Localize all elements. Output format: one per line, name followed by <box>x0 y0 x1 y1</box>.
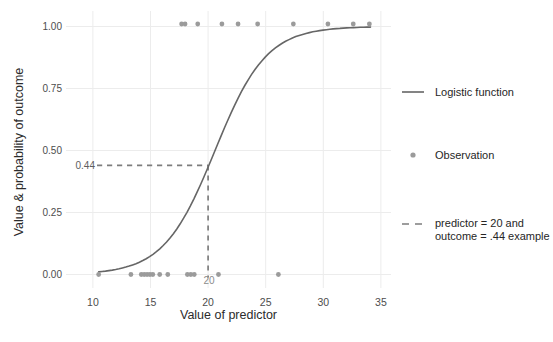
legend-label-example-line2: outcome = .44 example <box>435 230 550 243</box>
legend-label-observation: Observation <box>435 149 494 162</box>
legend-label-example-line1: predictor = 20 and <box>435 217 550 230</box>
y-tick-label: 0.25 <box>43 207 63 218</box>
observation-point <box>96 272 101 277</box>
observation-point <box>216 272 221 277</box>
observation-point <box>183 22 188 27</box>
observation-point <box>236 22 241 27</box>
observation-point <box>195 22 200 27</box>
y-tick-label: 0.50 <box>43 145 63 156</box>
point-key-icon <box>400 147 426 163</box>
y-tick-label: 0.75 <box>43 83 63 94</box>
x-tick-label: 15 <box>145 296 157 308</box>
legend-item-example: predictor = 20 and outcome = .44 example <box>400 217 550 242</box>
outcome-value-label: 0.44 <box>76 160 96 171</box>
observation-point <box>367 22 372 27</box>
legend: Logistic function Observation predictor … <box>396 0 553 342</box>
x-tick-label: 20 <box>202 296 214 308</box>
predictor-value-label: 20 <box>204 275 216 286</box>
observation-point <box>150 272 155 277</box>
dashed-line-key-icon <box>400 216 426 232</box>
legend-point-key <box>410 152 415 157</box>
observation-point <box>276 272 281 277</box>
x-tick-label: 10 <box>87 296 99 308</box>
x-tick-label: 30 <box>317 296 329 308</box>
observation-point <box>326 22 331 27</box>
x-tick-label: 25 <box>260 296 272 308</box>
y-tick-label: 0.00 <box>43 269 63 280</box>
observation-point <box>165 272 170 277</box>
observation-point <box>291 22 296 27</box>
logistic-regression-figure: 1015202530350.000.250.500.751.000.4420 V… <box>0 0 553 342</box>
observation-point <box>220 22 225 27</box>
legend-label-logistic-function: Logistic function <box>435 86 514 99</box>
logistic-curve <box>99 27 371 272</box>
line-key-icon <box>400 84 426 100</box>
y-tick-label: 1.00 <box>43 21 63 32</box>
x-axis-title: Value of predictor <box>66 308 391 322</box>
observation-point <box>192 272 197 277</box>
x-tick-label: 35 <box>375 296 387 308</box>
legend-item-observation: Observation <box>400 147 494 163</box>
y-axis-title: Value & probability of outcome <box>12 42 28 262</box>
observation-point <box>351 22 356 27</box>
observation-point <box>129 272 134 277</box>
legend-item-logistic-function: Logistic function <box>400 84 514 100</box>
observation-point <box>255 22 260 27</box>
observation-point <box>157 272 162 277</box>
